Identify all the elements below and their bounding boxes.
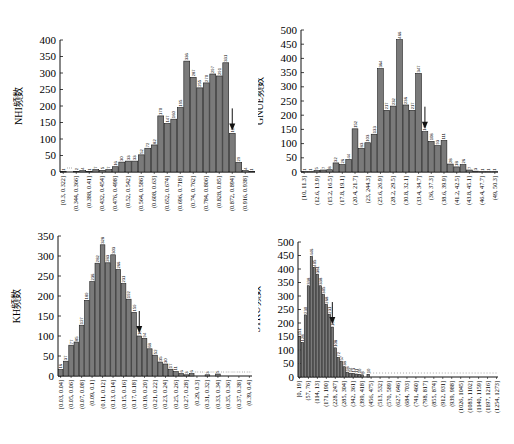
bar-value-label: 29 [236,156,241,161]
y-tick-label: 250 [278,303,295,315]
y-tick-label: 0 [289,371,295,383]
y-tick-label: 0 [51,166,57,178]
bar-value-label: 111 [441,132,446,139]
histogram-bar [473,171,479,172]
x-tick-label: (342, 361] [349,381,357,407]
x-tick-label: (30.8, 32.1] [402,176,410,205]
histogram-bar [378,69,384,172]
histogram-bar [147,349,152,376]
bar-value-label: 236 [403,96,408,104]
histogram-bar [355,374,357,377]
histogram-bar [106,170,112,172]
histogram-bar [352,373,354,377]
bar-value-label: 10 [366,368,371,373]
x-tick-label: (0.17, 0.18] [130,380,138,409]
histogram-bar [242,171,248,172]
histogram-bar [216,76,222,172]
x-tick-label: (0.916, 0.938] [241,176,249,211]
bar-value-label: 38 [342,360,347,365]
y-tick-label: 300 [38,250,55,262]
x-tick-label: (627, 646] [394,381,402,407]
histogram-bar [100,245,105,376]
bar-value-label: 255 [197,79,202,87]
bar-value-label: 381 [315,265,320,273]
x-tick-label: (0.07, 0.08] [78,380,86,409]
bar-value-label: 405 [312,259,317,267]
bar-value-label: 16 [58,363,63,368]
y-axis-label: KH频数 [10,289,22,323]
x-tick-label: (15.2, 16.5] [326,176,334,205]
x-tick-label: (0.872, 0.894] [228,176,236,211]
bar-value-label: 192 [126,291,131,299]
x-tick-label: (513, 532] [376,381,384,407]
y-tick-label: 50 [45,149,57,161]
histogram-bar [229,133,235,172]
y-tick-label: 50 [283,357,295,369]
x-tick-label: (57, 76] [304,381,312,401]
y-tick-label: 50 [43,350,55,362]
bar-value-label: 189 [84,292,89,300]
bar-value-label: 26 [461,158,466,163]
y-tick-label: 200 [281,109,298,121]
bar-value-label: 328 [100,236,105,244]
histogram-bar [210,74,216,172]
bar-value-label: 287 [191,69,196,77]
histogram-bar [313,268,315,377]
x-tick-label: [0.3, 0.322] [59,176,66,205]
bar-value-label: 195 [178,99,183,107]
x-tick-label: [0, 19] [295,381,302,398]
bar-value-label: 4 [80,167,85,170]
bar-value-label: 35 [158,356,163,361]
histogram-bar [346,160,352,172]
bar-value-label: 26 [340,158,345,163]
nhi-histogram: 050100150200250300350400NHI频数12417571630… [0,0,260,222]
histogram-bar [223,63,229,172]
x-tick-label: (1083, 1102] [466,381,474,413]
histogram-bar [316,274,318,377]
bar-value-label: 1 [87,168,92,171]
bar-value-label: 297 [210,65,215,73]
y-tick-label: 300 [278,290,295,302]
bar-value-label: 103 [365,134,370,142]
histogram-bar [304,315,306,377]
histogram-bar [138,155,144,172]
bar-value-label: 11 [173,366,178,371]
x-tick-label: (228, 247] [331,381,339,407]
x-tick-label: (1197, 1216] [484,381,492,413]
y-tick-label: 150 [38,310,55,322]
histogram-bar [158,116,164,172]
x-tick-label: (20.4, 21.7] [351,176,359,205]
y-tick-label: 150 [278,330,295,342]
x-tick-label: (171, 190] [322,381,330,407]
x-tick-label: (285, 304] [340,381,348,407]
x-tick-label: (0.33, 0.34] [214,380,222,409]
histogram-bar [352,129,358,172]
histogram-bar [145,148,151,172]
x-tick-label: (0.27, 0.28] [182,380,190,409]
y-tick-label: 300 [281,80,298,92]
y-tick-label: 350 [278,276,295,288]
bar-value-label: 3 [184,371,189,374]
histogram-bar [153,355,158,376]
bar-value-label: 1 [480,168,485,171]
x-tick-label: (0.39, 0.4] [245,380,253,406]
x-tick-label: (0.652, 0.674] [163,176,171,211]
y-axis-label: GNUE频数 [258,77,265,125]
x-tick-label: (0.52, 0.542] [124,176,132,208]
x-tick-label: (570, 589] [385,381,393,407]
bar-value-label: 127 [79,317,84,325]
x-tick-label: (49, 50.3] [491,176,499,200]
x-tick-label: (41.2, 42.5] [453,176,461,205]
y-tick-label: 200 [278,317,295,329]
bar-value-label: 17 [168,363,173,368]
bar-value-label: 7 [106,166,111,169]
bar-value-label: 7 [321,166,326,169]
bar-value-label: 170 [158,107,163,115]
histogram-bar [454,167,460,172]
bar-value-label: 1 [61,168,66,171]
histogram-bar [74,342,79,376]
bar-value-label: 338 [318,277,323,285]
histogram-bar [105,263,110,376]
x-tick-label: (0.432, 0.454] [98,176,106,211]
y-tick-label: 500 [278,236,295,248]
